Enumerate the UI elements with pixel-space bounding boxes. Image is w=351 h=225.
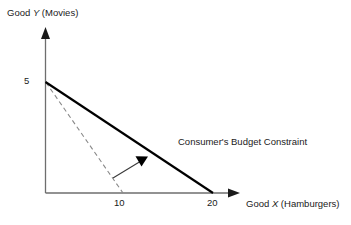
x-axis-title-suffix: (Hamburgers) [278, 198, 339, 209]
x-axis-title-prefix: Good [246, 198, 272, 209]
y-axis-title: Good Y (Movies) [7, 8, 78, 18]
shift-arrow-shaft [113, 161, 141, 178]
y-axis-title-prefix: Good [7, 7, 33, 18]
x-axis-tick-label-20: 20 [207, 198, 218, 208]
y-axis-arrowhead [41, 27, 50, 39]
budget-constraint-label: Consumer's Budget Constraint [178, 137, 307, 147]
x-axis-tick-label-10: 10 [114, 198, 125, 208]
x-axis-arrowhead [228, 189, 240, 198]
y-axis-title-suffix: (Movies) [39, 7, 78, 18]
chart-canvas [0, 0, 351, 225]
x-axis-title: Good X (Hamburgers) [246, 199, 339, 209]
shift-arrow-head [136, 156, 149, 166]
y-axis-tick-label-5: 5 [24, 76, 29, 86]
original-budget-line [46, 83, 123, 194]
budget-constraint-chart: Good Y (Movies) Good X (Hamburgers) 5 10… [0, 0, 351, 225]
